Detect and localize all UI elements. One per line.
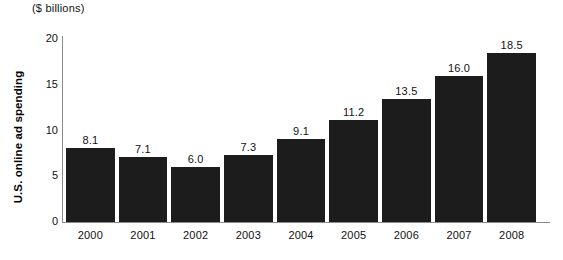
y-tick-label: 5 bbox=[36, 169, 58, 181]
bar-value-label: 7.3 bbox=[224, 141, 273, 153]
y-axis-line bbox=[62, 36, 63, 223]
y-tick-label: 20 bbox=[36, 32, 58, 44]
bar-group: 16.0 bbox=[435, 30, 484, 222]
x-tick-label: 2002 bbox=[171, 229, 220, 241]
bar bbox=[487, 53, 536, 222]
plot-area: 8.17.16.07.39.111.213.516.018.5 bbox=[66, 30, 536, 222]
bar-group: 7.3 bbox=[224, 30, 273, 222]
bar bbox=[224, 155, 273, 222]
x-tick-label: 2006 bbox=[382, 229, 431, 241]
bar-value-label: 7.1 bbox=[119, 143, 168, 155]
bar-group: 11.2 bbox=[329, 30, 378, 222]
bar bbox=[329, 120, 378, 222]
bar-value-label: 6.0 bbox=[171, 153, 220, 165]
y-axis-title: U.S. online ad spending bbox=[12, 44, 24, 230]
x-tick-label: 2001 bbox=[119, 229, 168, 241]
x-tick-label: 2003 bbox=[224, 229, 273, 241]
bar-group: 7.1 bbox=[119, 30, 168, 222]
bar-value-label: 11.2 bbox=[329, 106, 378, 118]
bar-group: 9.1 bbox=[277, 30, 326, 222]
x-tick-label: 2004 bbox=[277, 229, 326, 241]
x-tick-label: 2008 bbox=[487, 229, 536, 241]
bar-value-label: 9.1 bbox=[277, 125, 326, 137]
bar-value-label: 16.0 bbox=[435, 62, 484, 74]
bar-group: 18.5 bbox=[487, 30, 536, 222]
bar bbox=[171, 167, 220, 222]
units-note: ($ billions) bbox=[32, 2, 85, 14]
bar-group: 13.5 bbox=[382, 30, 431, 222]
x-tick-label: 2007 bbox=[435, 229, 484, 241]
bar bbox=[277, 139, 326, 222]
bar-value-label: 18.5 bbox=[487, 39, 536, 51]
bar bbox=[66, 148, 115, 222]
x-tick-label-group: 200020012002200320042005200620072008 bbox=[66, 229, 536, 241]
x-tick-label: 2005 bbox=[329, 229, 378, 241]
bar-chart: ($ billions) U.S. online ad spending 051… bbox=[0, 0, 563, 260]
bar-series: 8.17.16.07.39.111.213.516.018.5 bbox=[66, 30, 536, 222]
y-tick-label: 15 bbox=[36, 78, 58, 90]
bar-group: 6.0 bbox=[171, 30, 220, 222]
y-tick-label: 0 bbox=[36, 215, 58, 227]
x-axis-line bbox=[62, 222, 550, 223]
bar bbox=[382, 99, 431, 222]
bar bbox=[119, 157, 168, 222]
bar bbox=[435, 76, 484, 222]
x-tick-label: 2000 bbox=[66, 229, 115, 241]
bar-group: 8.1 bbox=[66, 30, 115, 222]
bar-value-label: 8.1 bbox=[66, 134, 115, 146]
bar-value-label: 13.5 bbox=[382, 85, 431, 97]
y-tick-label: 10 bbox=[36, 124, 58, 136]
